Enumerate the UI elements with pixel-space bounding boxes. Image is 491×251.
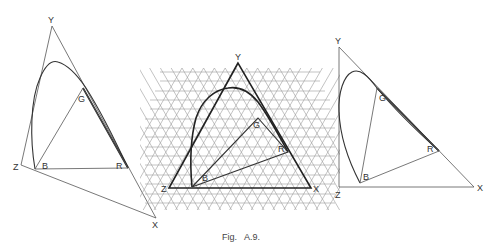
right-spectral-locus xyxy=(339,71,439,183)
right-label-x: X xyxy=(477,183,483,193)
left-label-x: X xyxy=(152,220,158,230)
middle-label-r: R xyxy=(278,144,285,154)
left-label-z: Z xyxy=(13,162,19,172)
right-label-y: Y xyxy=(335,36,341,46)
left-label-g: G xyxy=(78,94,85,104)
right-label-b: B xyxy=(363,172,369,182)
figure-caption: Fig. A.9. xyxy=(222,232,260,242)
left-diagram: Y Z X B R G xyxy=(13,15,158,230)
right-label-r: R xyxy=(427,144,434,154)
middle-label-z: Z xyxy=(161,184,167,194)
middle-label-b: B xyxy=(202,173,208,183)
middle-label-x: X xyxy=(313,184,319,194)
middle-label-y: Y xyxy=(235,52,241,62)
right-label-g: G xyxy=(379,93,386,103)
left-label-b: B xyxy=(42,161,48,171)
left-label-r: R xyxy=(116,161,123,171)
right-rgb-triangle xyxy=(360,88,439,183)
middle-label-g: G xyxy=(253,120,260,130)
left-label-y: Y xyxy=(48,15,54,25)
middle-diagram: Y Z X B R G xyxy=(74,52,409,210)
figure-canvas: Y Z X B R G xyxy=(0,0,491,251)
right-label-z: Z xyxy=(335,190,341,200)
right-diagram: Y Z X B R G xyxy=(335,36,483,200)
left-xyz-triangle xyxy=(21,26,156,218)
